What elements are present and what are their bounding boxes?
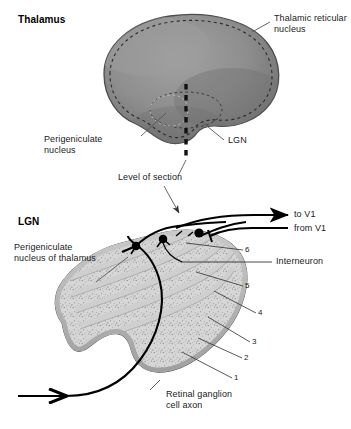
lgn-illustration: [18, 206, 288, 396]
lgn-layer-number-5: 5: [245, 281, 249, 290]
label-perigeniculate-nucleus-top-line2: nucleus: [44, 145, 76, 156]
label-thalamic-reticular-nucleus-line1: Thalamic reticular: [274, 13, 347, 24]
leader-retinal-axon: [150, 380, 160, 390]
label-perigeniculate-nucleus-of-thalamus-line1: Perigeniculate: [14, 242, 72, 253]
label-retinal-ganglion-cell-axon-line2: cell axon: [166, 400, 202, 411]
label-thalamic-reticular-nucleus-line2: nucleus: [274, 24, 306, 35]
arrow-level-of-section: [164, 186, 179, 213]
thalamus-heading: Thalamus: [18, 14, 65, 25]
relay-neuron-soma-2: [194, 228, 203, 237]
label-level-of-section: Level of section: [118, 172, 182, 183]
lgn-heading: LGN: [18, 216, 39, 227]
label-interneuron: Interneuron: [276, 256, 323, 267]
lgn-layer-number-4: 4: [258, 308, 262, 317]
lgn-layer-number-3: 3: [252, 337, 256, 346]
lgn-layer-number-1: 1: [234, 373, 238, 382]
thalamus-illustration: [90, 14, 290, 213]
label-perigeniculate-nucleus-top-line1: Perigeniculate: [44, 134, 102, 145]
lgn-figure: Thalamus Thalamic reticular nucleus Peri…: [0, 0, 351, 429]
label-perigeniculate-nucleus-of-thalamus-line2: nucleus of thalamus: [14, 253, 96, 264]
leader-thalamic-reticular: [252, 22, 270, 32]
label-from-v1: from V1: [294, 223, 326, 234]
label-retinal-ganglion-cell-axon-line1: Retinal ganglion: [166, 389, 232, 400]
leader-layer-1: [182, 352, 232, 378]
label-to-v1: to V1: [294, 209, 316, 220]
label-lgn-top: LGN: [228, 135, 247, 146]
lgn-layer-number-6: 6: [245, 245, 249, 254]
lgn-layer-number-2: 2: [244, 353, 248, 362]
lgn-interior: [45, 206, 260, 380]
